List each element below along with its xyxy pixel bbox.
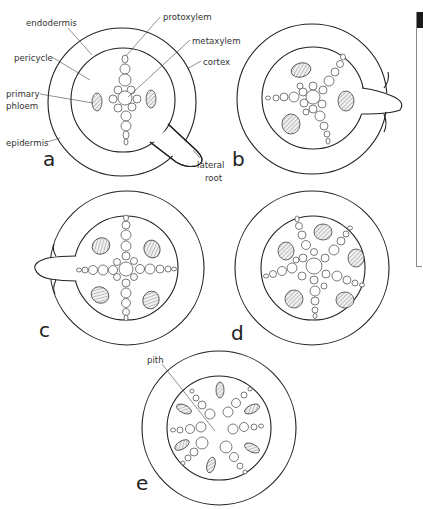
label-primary-phloem-line1: primary <box>6 89 40 99</box>
leader-metaxylem <box>128 40 190 97</box>
phloem-patch <box>314 224 332 240</box>
label-lateral-root-line2: root <box>205 173 223 183</box>
panel-letter-b: b <box>232 147 245 171</box>
phloem-patch <box>278 242 294 260</box>
phloem-patch <box>92 93 102 111</box>
panel-letter-c: c <box>39 318 50 342</box>
leader-pericycle <box>52 57 90 80</box>
panel-a: endodermis pericycle primary phloem epid… <box>6 12 241 183</box>
cropped-panel-header-bar <box>417 12 423 28</box>
label-cortex: cortex <box>203 57 230 67</box>
phloem-patch <box>338 91 354 111</box>
phloem-patch <box>141 238 162 260</box>
leader-pith <box>162 364 215 431</box>
panel-letter-d: d <box>231 321 244 345</box>
panel-letter-a: a <box>43 147 55 171</box>
xylem-cross <box>77 215 177 321</box>
phloem-patch <box>285 290 303 308</box>
label-pith: pith <box>147 355 164 365</box>
cropped-adjacent-panel <box>416 12 422 267</box>
panel-d: d <box>231 191 389 345</box>
leader-protoxylem <box>126 17 160 56</box>
panel-e: pith e <box>136 351 296 505</box>
phloem-patch <box>173 438 191 453</box>
phloem-patch <box>348 249 364 267</box>
label-endodermis: endodermis <box>26 18 77 28</box>
epidermis-ring <box>142 351 296 505</box>
label-lateral-root-line1: lateral <box>197 160 225 170</box>
phloem-patch <box>282 114 300 134</box>
phloem-patch <box>146 90 156 108</box>
phloem-patch <box>336 292 354 308</box>
panel-c: c <box>35 191 204 345</box>
phloem-patch <box>88 284 112 307</box>
label-pericycle: pericycle <box>14 53 53 63</box>
phloem-patch <box>290 61 313 80</box>
xylem-plate <box>109 55 141 145</box>
panel-letter-e: e <box>136 471 148 495</box>
label-primary-phloem-line2: phloem <box>6 101 38 111</box>
phloem-patch <box>205 456 217 474</box>
phloem-patch <box>216 382 224 398</box>
phloem-patch <box>175 402 193 416</box>
label-metaxylem: metaxylem <box>192 36 241 46</box>
leader-cortex <box>187 61 201 69</box>
phloem-patch <box>89 235 113 258</box>
label-protoxylem: protoxylem <box>163 12 212 22</box>
leader-endodermis <box>68 28 92 55</box>
phloem-patch <box>243 402 261 416</box>
xylem-rays <box>171 387 264 474</box>
phloem-patch <box>243 441 261 455</box>
panel-b: b <box>232 24 403 174</box>
